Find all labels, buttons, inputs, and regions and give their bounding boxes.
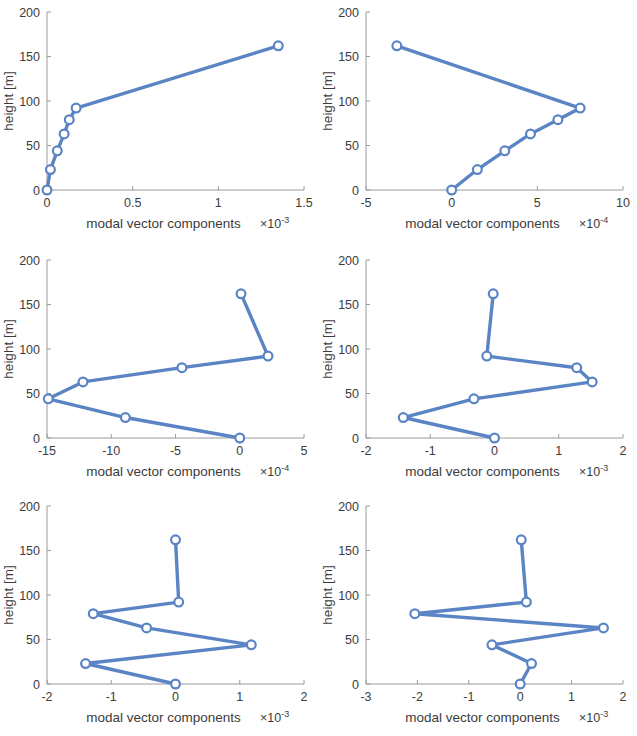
x-axis-label: modal vector components — [405, 710, 560, 725]
y-axis-label: height [m] — [320, 319, 335, 378]
data-marker — [553, 115, 562, 124]
y-tick-label: 0 — [33, 184, 40, 198]
data-marker — [482, 352, 491, 361]
x-tick-label: 2 — [620, 444, 627, 458]
data-marker — [43, 186, 52, 195]
data-marker — [576, 104, 585, 113]
x-tick-label: 2 — [620, 690, 627, 704]
data-marker — [488, 640, 497, 649]
y-tick-label: 200 — [338, 6, 359, 20]
x-tick-label: -1 — [463, 690, 474, 704]
x-tick-label: -2 — [412, 690, 423, 704]
modal-shapes-figure: 05010015020000.511.5modal vector compone… — [0, 0, 637, 736]
x-axis-label: modal vector components — [405, 464, 560, 479]
data-marker — [81, 659, 90, 668]
y-axis-label: height [m] — [1, 565, 16, 624]
y-tick-label: 150 — [338, 544, 359, 558]
y-tick-label: 200 — [338, 254, 359, 268]
x-tick-label: -3 — [360, 690, 371, 704]
data-marker — [526, 130, 535, 139]
x-tick-label: -1 — [106, 690, 117, 704]
y-tick-label: 100 — [338, 589, 359, 603]
y-tick-label: 0 — [352, 184, 359, 198]
x-axis-label: modal vector components — [86, 464, 241, 479]
data-marker — [490, 434, 499, 443]
y-tick-label: 200 — [19, 6, 40, 20]
y-tick-label: 0 — [352, 678, 359, 692]
data-line — [403, 294, 592, 438]
x-axis-exponent-power: -3 — [600, 709, 608, 719]
x-tick-label: 0 — [44, 196, 51, 210]
x-tick-label: 1 — [215, 196, 222, 210]
x-axis-exponent: ×10-4 — [579, 215, 608, 231]
x-tick-label: 1.5 — [295, 196, 312, 210]
data-marker — [237, 289, 246, 298]
data-marker — [274, 41, 283, 50]
x-tick-label: 0 — [517, 690, 524, 704]
x-tick-label: -5 — [170, 444, 181, 458]
data-line — [48, 294, 268, 438]
data-marker — [171, 680, 180, 689]
data-marker — [46, 165, 55, 174]
x-tick-label: 0 — [448, 196, 455, 210]
data-marker — [174, 598, 183, 607]
y-tick-label: 100 — [19, 343, 40, 357]
y-tick-label: 100 — [19, 95, 40, 109]
x-axis-exponent-power: -4 — [281, 463, 289, 473]
data-marker — [264, 352, 273, 361]
data-marker — [410, 609, 419, 618]
data-marker — [527, 659, 536, 668]
y-tick-label: 200 — [19, 254, 40, 268]
x-tick-label: 5 — [301, 444, 308, 458]
y-tick-label: 150 — [338, 298, 359, 312]
x-tick-label: -10 — [102, 444, 120, 458]
axis-spine — [366, 260, 623, 438]
axis-spine — [47, 506, 304, 684]
y-tick-label: 200 — [338, 500, 359, 514]
y-tick-label: 0 — [352, 432, 359, 446]
x-tick-label: 2 — [301, 690, 308, 704]
y-tick-label: 50 — [26, 139, 40, 153]
data-marker — [588, 378, 597, 387]
y-tick-label: 200 — [19, 500, 40, 514]
y-axis-label: height [m] — [320, 71, 335, 130]
data-marker — [447, 186, 456, 195]
x-tick-label: 1 — [568, 690, 575, 704]
y-axis-label: height [m] — [1, 71, 16, 130]
data-marker — [399, 413, 408, 422]
data-marker — [65, 115, 74, 124]
data-marker — [500, 146, 509, 155]
x-tick-label: 5 — [534, 196, 541, 210]
x-axis-exponent-power: -3 — [600, 463, 608, 473]
data-marker — [142, 624, 151, 633]
data-marker — [392, 41, 401, 50]
x-tick-label: -2 — [41, 690, 52, 704]
data-marker — [72, 104, 81, 113]
data-marker — [44, 394, 53, 403]
y-axis-label: height [m] — [320, 565, 335, 624]
x-tick-label: -2 — [360, 444, 371, 458]
y-tick-label: 150 — [338, 50, 359, 64]
axis-spine — [366, 506, 623, 684]
data-marker — [599, 624, 608, 633]
data-marker — [171, 535, 180, 544]
data-marker — [572, 363, 581, 372]
data-line — [397, 46, 580, 190]
data-marker — [517, 535, 526, 544]
x-axis-exponent: ×10-3 — [260, 215, 289, 231]
x-tick-label: 1 — [555, 444, 562, 458]
x-axis-label: modal vector components — [86, 710, 241, 725]
x-tick-label: -5 — [360, 196, 371, 210]
data-marker — [247, 640, 256, 649]
y-tick-label: 0 — [33, 678, 40, 692]
x-tick-label: 10 — [616, 196, 630, 210]
data-marker — [89, 609, 98, 618]
y-tick-label: 50 — [345, 139, 359, 153]
x-tick-label: 0 — [236, 444, 243, 458]
data-marker — [178, 363, 187, 372]
chart-panel-2: 050100150200-50510modal vector component… — [319, 0, 637, 245]
y-tick-label: 50 — [345, 633, 359, 647]
x-tick-label: 0 — [172, 690, 179, 704]
y-tick-label: 150 — [19, 544, 40, 558]
y-tick-label: 50 — [345, 387, 359, 401]
